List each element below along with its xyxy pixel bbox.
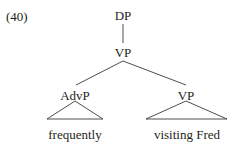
triangle-advp — [47, 101, 103, 119]
syntax-tree-figure: (40) DP VP AdvP VP frequently visiting F… — [0, 0, 240, 149]
node-dp: DP — [115, 9, 132, 22]
terminal-visiting-fred: visiting Fred — [154, 128, 220, 141]
node-advp: AdvP — [60, 89, 90, 102]
edge-vp-vp2 — [123, 61, 186, 85]
edge-vp-advp — [76, 61, 123, 85]
triangle-vp2 — [146, 101, 227, 119]
terminal-frequently: frequently — [48, 128, 101, 141]
node-vp2: VP — [178, 89, 195, 102]
node-vp: VP — [115, 46, 132, 59]
